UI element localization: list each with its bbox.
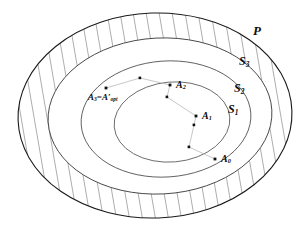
point-label-A2-subscript: 2	[183, 83, 186, 90]
set-diagram-figure: P S3 S2 S1 A3=A′opt A2 A1 A0	[0, 0, 306, 230]
point-A0	[214, 158, 217, 161]
point-label-A0-base: A	[221, 153, 228, 164]
point-label-A2: A2	[176, 80, 186, 90]
point-label-A1-base: A	[202, 110, 209, 121]
point-label-A2-base: A	[176, 79, 183, 90]
point-label-A0: A0	[221, 154, 231, 164]
point-label-A3-subscript: 3	[94, 96, 97, 102]
set-label-S1-subscript: 1	[235, 108, 239, 117]
set-label-S3: S3	[239, 55, 249, 67]
set-label-S1-base: S	[228, 102, 235, 116]
point-label-A1-subscript: 1	[209, 114, 212, 121]
set-label-S2-subscript: 2	[241, 87, 245, 96]
point-label-A3-equals-Aopt: A3=A′opt	[88, 93, 118, 102]
point-v1	[139, 77, 142, 80]
point-A2	[169, 84, 172, 87]
point-A3	[105, 87, 108, 90]
set-label-P-base: P	[253, 23, 261, 38]
point-A1	[195, 115, 198, 118]
set-label-S2: S2	[234, 82, 244, 94]
set-label-S3-subscript: 3	[246, 60, 250, 69]
set-label-P: P	[253, 24, 261, 37]
set-label-S1: S1	[228, 103, 238, 115]
point-label-A0-subscript: 0	[228, 157, 231, 164]
point-label-A1: A1	[202, 111, 212, 121]
point-v3	[193, 124, 196, 127]
set-label-S3-base: S	[239, 54, 246, 68]
set-label-S2-base: S	[234, 81, 241, 95]
point-v2	[166, 96, 169, 99]
point-label-Aopt-subscript: opt	[111, 96, 118, 102]
point-v4	[188, 146, 191, 149]
